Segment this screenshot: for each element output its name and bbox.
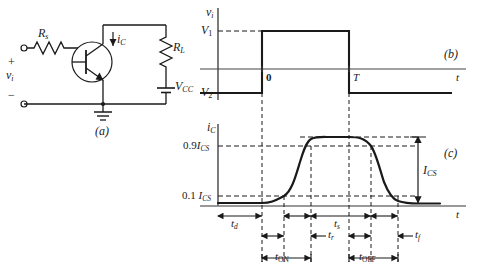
input-waveform-panel xyxy=(200,8,466,100)
ic-time-axis-label: t xyxy=(456,208,459,220)
toff-label: tOFF xyxy=(359,250,376,264)
minus-sign-label: − xyxy=(8,88,15,103)
tf-label: tf xyxy=(415,228,420,242)
emitter-arrow-icon xyxy=(96,73,104,81)
transistor-collector-lead xyxy=(86,44,103,56)
input-terminal-positive xyxy=(21,45,27,51)
tick-zero-label: 0 xyxy=(266,71,272,83)
panel-tag-a: (a) xyxy=(95,124,109,139)
collector-current-label: iC xyxy=(117,32,126,47)
tick-period-label: T xyxy=(353,71,359,83)
ton-label: tON xyxy=(275,250,289,264)
load-resistor-symbol xyxy=(160,25,172,78)
td-label: td xyxy=(231,217,238,231)
ic-axis-label: iC xyxy=(207,120,216,135)
v2-level-label: V2 xyxy=(201,85,212,100)
panel-tag-c: (c) xyxy=(444,146,457,161)
threshold-high-label: 0.9ICS xyxy=(183,139,209,153)
series-resistor-symbol xyxy=(27,42,78,54)
threshold-low-label: 0.1 ICS xyxy=(182,189,211,203)
vi-axis-label: vi xyxy=(206,5,214,20)
v1-level-label: V1 xyxy=(201,23,212,38)
series-resistor-label: Rs xyxy=(38,26,49,41)
ic-response-trace xyxy=(218,137,440,204)
ts-label: ts xyxy=(334,217,340,231)
supply-voltage-label: VCC xyxy=(175,79,193,94)
input-voltage-label: vi xyxy=(6,68,14,83)
panel-tag-b: (b) xyxy=(444,47,458,62)
vi-pulse-trace xyxy=(200,31,452,93)
switching-characteristics-figure xyxy=(0,0,483,274)
vi-time-axis-label: t xyxy=(456,71,459,83)
ics-amplitude-label: ICS xyxy=(423,163,437,178)
load-resistor-label: RL xyxy=(173,40,185,55)
